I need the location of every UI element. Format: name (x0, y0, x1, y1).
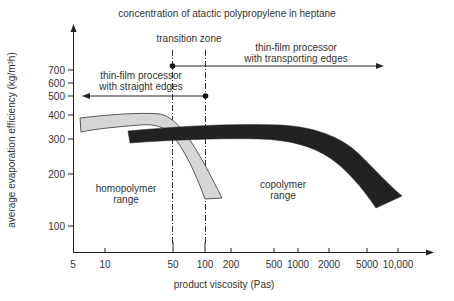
x-tick-label: 5000 (356, 259, 379, 270)
straight-label-line2: with straight edges (98, 81, 182, 92)
y-tick-label: 200 (48, 169, 65, 180)
y-axis-label: average evaporation efficiency (kg/m³h) (6, 52, 17, 227)
arrow-left-icon (82, 93, 90, 99)
x-tick-label: 50 (167, 259, 179, 270)
arrow-right-icon (376, 63, 384, 69)
transporting-label-line1: thin-film processor (255, 42, 337, 53)
x-tick-label: 1000 (287, 259, 310, 270)
chart-title: concentration of atactic polypropylene i… (118, 8, 336, 19)
x-tick-label: 500 (266, 259, 283, 270)
homopolymer-label-line2: range (113, 194, 139, 205)
copolymer-label-line1: copolymer (260, 179, 307, 190)
y-tick-label: 600 (48, 78, 65, 89)
copolymer-label-line2: range (270, 190, 296, 201)
chart: concentration of atactic polypropylene i… (0, 0, 454, 301)
x-axis-label: product viscosity (Pas) (174, 279, 275, 290)
x-tick-label: 10 (99, 259, 111, 270)
transporting-start-dot (170, 63, 176, 69)
copolymer-band (128, 124, 402, 208)
straight-end-dot (203, 93, 209, 99)
straight-label-line1: thin-film processor (100, 70, 182, 81)
x-axis-arrow-icon (426, 250, 434, 256)
y-tick-label: 400 (48, 110, 65, 121)
y-ticks: 700 600 500 400 300 200 100 (48, 65, 73, 232)
x-ticks: 5 10 50 100 200 500 1000 2000 5000 10,00… (70, 242, 414, 270)
x-tick-label: 10,000 (383, 259, 414, 270)
transporting-label-line2: with transporting edges (243, 53, 347, 64)
x-tick-label: 5 (70, 259, 76, 270)
x-tick-label: 200 (223, 259, 240, 270)
y-tick-label: 100 (48, 221, 65, 232)
y-tick-label: 300 (48, 134, 65, 145)
y-axis-arrow-icon (71, 24, 77, 32)
x-tick-label: 2000 (318, 259, 341, 270)
y-tick-label: 500 (48, 91, 65, 102)
y-tick-label: 700 (48, 65, 65, 76)
x-tick-label: 100 (197, 259, 214, 270)
transition-zone-label: transition zone (156, 33, 221, 44)
homopolymer-label-line1: homopolymer (96, 183, 157, 194)
